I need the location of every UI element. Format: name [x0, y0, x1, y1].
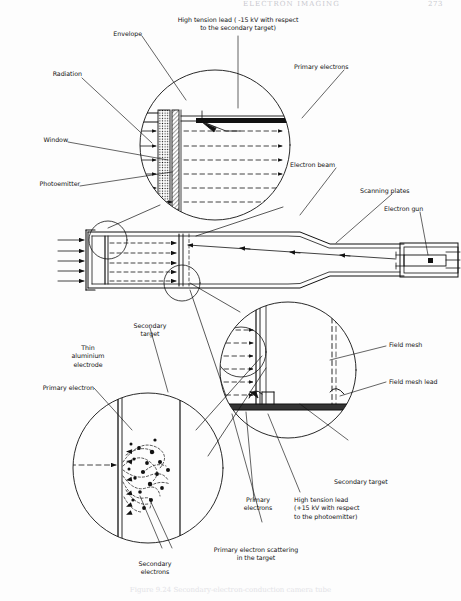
figure-page: ELECTRON IMAGING 273 [0, 0, 461, 601]
label-primary-electrons-top: Primary electrons [294, 63, 349, 71]
detail-circle-top [89, 70, 300, 259]
label-thin-aluminium-electrode: Thin aluminium electrode [56, 344, 120, 369]
figure-caption: Figure 9.24 Secondary-electron-conductio… [0, 586, 461, 594]
label-secondary-electrons: Secondary electrons [122, 560, 188, 577]
label-electron-gun: Electron gun [384, 205, 423, 213]
label-window: Window [6, 136, 68, 144]
label-field-mesh: Field mesh [389, 341, 422, 349]
label-secondary-target-lower: Secondary target [334, 478, 388, 486]
detail-circle-middle [164, 265, 360, 438]
label-high-tension-lead-top: High tension lead ( -15 kV with respect … [158, 16, 318, 33]
label-primary-electron: Primary electron [2, 384, 94, 392]
main-tube-body [58, 230, 460, 290]
label-scanning-plates: Scanning plates [360, 187, 410, 195]
label-electron-beam: Electron beam [290, 161, 335, 169]
label-secondary-target-upper: Secondary target [116, 322, 184, 339]
label-field-mesh-lead: Field mesh lead [389, 378, 438, 386]
label-envelope: Envelope [66, 30, 142, 38]
label-radiation: Radiation [8, 70, 82, 78]
label-primary-electrons-bottom: Primary electrons [230, 496, 286, 513]
label-primary-electron-scattering: Primary electron scattering in the targe… [182, 546, 330, 563]
label-high-tension-lead-bottom: High tension lead (+15 kV with respect t… [294, 496, 359, 521]
label-photoemitter: Photoemitter [2, 180, 80, 188]
